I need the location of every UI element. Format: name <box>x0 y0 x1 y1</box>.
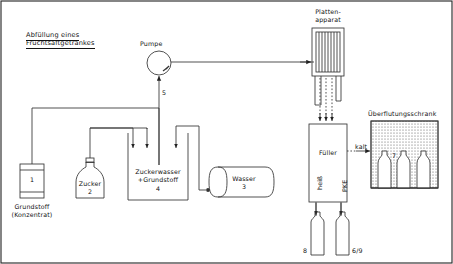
pipe-header-top <box>32 108 159 128</box>
bottle-pke <box>336 212 349 255</box>
bottle-hot-number: 8 <box>303 247 307 255</box>
flood-cabinet-number: 7 <box>392 152 396 160</box>
title-line-2: Fruchtsaftgetränkes <box>26 39 95 49</box>
concentrate-caption: Grundstoff(Konzentrat) <box>2 203 62 219</box>
pump-label: Pumpe <box>140 40 162 48</box>
diagram-title: Abfüllung einesFruchtsaftgetränkes <box>26 31 95 47</box>
mix-tank-label: Zuckerwasser+Grundstoff <box>124 168 192 184</box>
cabinet-bottles <box>378 151 430 188</box>
plate-apparatus-label-line-2: apparat <box>315 16 341 23</box>
plate-dashed-lines <box>320 78 332 118</box>
plate-apparatus <box>312 28 344 76</box>
bottle-hot <box>311 212 324 255</box>
mix-tank-label-line-2: +Grundstoff <box>138 176 178 183</box>
sugar-label: Zucker <box>74 180 106 188</box>
mix-tank-number: 4 <box>124 185 192 193</box>
pump-body <box>147 51 171 75</box>
process-flow-diagram: Abfüllung einesFruchtsaftgetränkes Pumpe… <box>0 0 453 264</box>
water-tank-label: Wasser <box>222 175 266 183</box>
plate-apparatus-label: Platten-apparat <box>304 8 352 24</box>
stream-heiss-label: heiß <box>316 176 324 190</box>
pump-stream-number: 5 <box>162 89 166 97</box>
stream-pke-label: PKE <box>341 180 349 192</box>
concentrate-number: 1 <box>20 176 44 184</box>
bottle-pke-number: 6/9 <box>352 247 363 255</box>
water-tank-number: 3 <box>222 183 266 191</box>
stream-kalt-label: kalt <box>355 143 367 151</box>
water-outlet-valve <box>206 188 210 192</box>
mix-tank-label-line-1: Zuckerwasser <box>135 168 181 175</box>
sugar-number: 2 <box>74 188 106 196</box>
filler-label: Füller <box>309 149 347 157</box>
concentrate-caption-line-2: (Konzentrat) <box>12 211 53 218</box>
flood-cabinet-label: Überflutungsschrank <box>368 110 436 118</box>
plate-apparatus-label-line-1: Platten- <box>315 8 341 15</box>
concentrate-caption-line-1: Grundstoff <box>15 203 50 210</box>
